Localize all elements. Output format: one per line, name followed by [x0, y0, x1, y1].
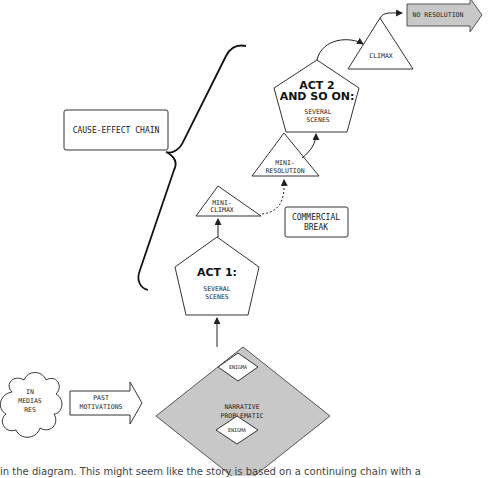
act2-title-line-2: AND SO ON: — [280, 90, 355, 103]
in-medias-res-line-2: MEDIAS — [18, 397, 42, 405]
past-motivations-line-2: MOTIVATIONS — [79, 403, 122, 411]
act1-sub-line-2: SCENES — [205, 293, 229, 301]
commercial-break-line-1: COMMERCIAL — [292, 213, 340, 222]
act2-sub-line-2: SCENES — [306, 116, 330, 124]
arrow-to-act2 — [302, 134, 316, 158]
in-medias-res-cloud: IN MEDIAS RES — [0, 373, 62, 438]
narrative-problematic-diamond: ENIGMA NARRATIVE PROBLEMATIC ENIGMA — [156, 347, 330, 476]
mini-resolution-triangle: MINI- RESOLUTION — [252, 133, 319, 176]
caption-text: in the diagram. This might seem like the… — [0, 466, 489, 478]
act2-pentagon: ACT 2 AND SO ON: SEVERAL SCENES — [274, 60, 359, 132]
climax-label: CLIMAX — [369, 52, 393, 60]
in-medias-res-line-3: RES — [24, 406, 36, 414]
commercial-break-line-2: BREAK — [304, 223, 328, 232]
mini-resolution-line-1: MINI- — [275, 159, 295, 167]
act1-title: ACT 1: — [197, 266, 237, 279]
mini-climax-line-2: CLIMAX — [210, 206, 234, 214]
act1-pentagon: ACT 1: SEVERAL SCENES — [175, 237, 259, 315]
mini-climax-triangle: MINI- CLIMAX — [196, 186, 261, 216]
arrow-to-no-resolution — [380, 13, 402, 18]
enigma-label-bottom: ENIGMA — [228, 427, 246, 433]
past-motivations-arrow: PAST MOTIVATIONS — [70, 382, 142, 424]
narrative-problematic-line-1: NARRATIVE — [224, 403, 259, 411]
no-resolution-arrow: NO RESOLUTION — [407, 0, 482, 32]
climax-triangle: CLIMAX — [348, 18, 413, 69]
cause-effect-chain-box: CAUSE-EFFECT CHAIN — [64, 110, 168, 150]
in-medias-res-line-1: IN — [26, 388, 34, 396]
commercial-break-box: COMMERCIAL BREAK — [285, 207, 348, 237]
act2-sub-line-1: SEVERAL — [304, 108, 331, 116]
mini-resolution-line-2: RESOLUTION — [265, 167, 304, 175]
cause-effect-chain-label: CAUSE-EFFECT CHAIN — [73, 126, 160, 135]
enigma-label-top: ENIGMA — [229, 364, 247, 370]
act1-sub-line-1: SEVERAL — [203, 285, 230, 293]
no-resolution-label: NO RESOLUTION — [413, 11, 464, 19]
dashed-arrow-to-mini-resolution — [262, 180, 284, 214]
past-motivations-line-1: PAST — [93, 394, 109, 402]
